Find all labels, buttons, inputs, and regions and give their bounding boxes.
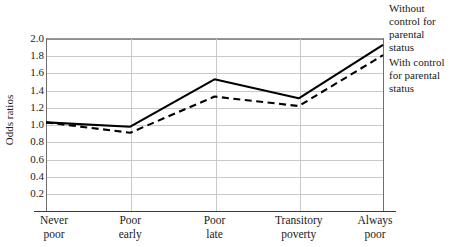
legend-entry-line: control for bbox=[389, 15, 467, 28]
legend-entry: Withoutcontrol forparentalstatus bbox=[389, 2, 467, 54]
x-tick-label-line: Transitory bbox=[275, 213, 323, 227]
x-tick-label-line: Always bbox=[357, 213, 392, 227]
legend-entry-line: status bbox=[389, 41, 467, 54]
x-tick-label: Transitorypoverty bbox=[275, 213, 323, 241]
legend-entry: With controlfor parentalstatus bbox=[389, 56, 467, 95]
legend-entry-line: parental bbox=[389, 28, 467, 41]
legend-entry-line: for parental bbox=[389, 69, 467, 82]
legend-entry-line: With control bbox=[389, 56, 467, 69]
x-axis-line bbox=[34, 211, 396, 212]
x-tick-label: Alwayspoor bbox=[357, 213, 392, 241]
series-with-control-line bbox=[46, 55, 383, 133]
legend-entry-line: Without bbox=[389, 2, 467, 15]
x-tick-label: Poorearly bbox=[119, 213, 142, 241]
x-tick-label-line: Poor bbox=[204, 213, 226, 227]
x-tick-label: Poorlate bbox=[204, 213, 226, 241]
cropped-caption bbox=[46, 239, 436, 247]
x-tick-label-line: Never bbox=[40, 213, 68, 227]
legend-entry-line: status bbox=[389, 82, 467, 95]
x-tick-label-line: Poor bbox=[119, 213, 142, 227]
figure-odds-ratios-by-poverty-pattern: Odds ratios 2.01.81.61.41.21.00.80.60.40… bbox=[0, 0, 467, 247]
x-tick-label: Neverpoor bbox=[40, 213, 68, 241]
